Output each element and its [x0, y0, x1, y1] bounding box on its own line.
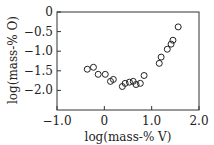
data-point — [95, 71, 101, 77]
y-tick-label: 0 — [45, 5, 53, 19]
data-point — [90, 64, 96, 70]
x-tick-label: −1.0 — [42, 114, 71, 128]
x-tick-label: 1.0 — [142, 114, 161, 128]
y-tick-label: −1.5 — [24, 64, 53, 78]
y-axis-label: log(mass-% O) — [6, 16, 20, 104]
y-axis-ticks: 0−0.5−1.0−1.5−2.0 — [24, 5, 61, 97]
x-tick-label: 2.0 — [189, 114, 208, 128]
y-tick-label: −1.0 — [24, 44, 53, 58]
x-axis-ticks: −1.001.02.0 — [42, 106, 208, 128]
scatter-chart: 0−0.5−1.0−1.5−2.0 −1.001.02.0 log(mass-%… — [0, 0, 214, 145]
y-tick-label: −2.0 — [24, 83, 53, 97]
x-axis-label: log(mass-% V) — [85, 130, 172, 144]
plot-frame — [57, 12, 199, 110]
data-point — [158, 54, 164, 60]
y-tick-label: −0.5 — [24, 25, 53, 39]
data-point — [141, 73, 147, 79]
x-tick-label: 0 — [101, 114, 109, 128]
data-point — [175, 24, 181, 30]
data-point — [84, 66, 90, 72]
data-points — [84, 24, 181, 90]
data-point — [102, 71, 108, 77]
data-point — [137, 80, 143, 86]
data-point — [156, 60, 162, 66]
